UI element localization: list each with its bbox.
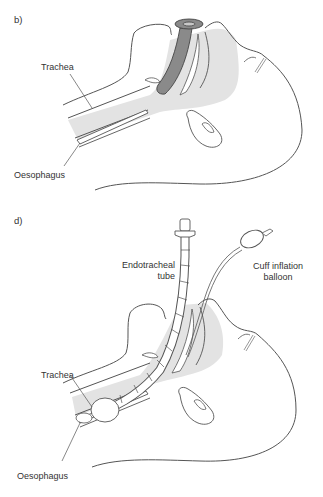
label-endotracheal-tube-line1: Endotracheal [122, 260, 175, 270]
panel-d: d) Endotracheal tube Cuff inflation ball… [0, 205, 323, 497]
label-oesophagus-d: Oesophagus [17, 471, 68, 482]
label-trachea-b: Trachea [41, 62, 74, 73]
panel-letter-b: b) [14, 14, 22, 25]
airway-diagram-d [0, 205, 323, 497]
label-endotracheal-tube: Endotracheal tube [120, 260, 175, 282]
panel-b: b) Trachea Oesophagus [0, 0, 323, 210]
label-cuff-inflation-balloon-line2: balloon [263, 272, 292, 282]
label-trachea-d: Trachea [41, 370, 74, 381]
label-endotracheal-tube-line2: tube [157, 271, 175, 281]
label-cuff-inflation-balloon: Cuff inflation balloon [245, 261, 311, 283]
label-cuff-inflation-balloon-line1: Cuff inflation [253, 261, 303, 271]
panel-letter-d: d) [14, 215, 22, 226]
label-oesophagus-b: Oesophagus [14, 170, 65, 181]
